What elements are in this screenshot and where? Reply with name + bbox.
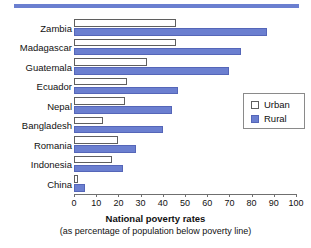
bar-rural-nepal (74, 106, 172, 114)
x-axis-tick-label: 30 (136, 198, 146, 209)
bar-group (74, 38, 311, 58)
bar-rural-indonesia (74, 165, 123, 173)
category-label-zambia: Zambia (40, 22, 72, 33)
bar-group (74, 155, 311, 175)
decorative-top-rule (14, 4, 299, 8)
chart-axis-subtitle: (as percentage of population below pover… (0, 226, 311, 236)
bar-urban-zambia (74, 19, 176, 27)
bar-urban-guatemala (74, 58, 147, 66)
x-axis-tick (274, 194, 275, 197)
category-label-romania: Romania (34, 139, 72, 150)
bar-rural-guatemala (74, 67, 229, 75)
chart-axis-title: National poverty rates (0, 213, 311, 224)
x-axis-tick-label: 40 (158, 198, 168, 209)
x-axis-tick (163, 194, 164, 197)
x-axis-tick (229, 194, 230, 197)
x-axis-tick-label: 10 (91, 198, 101, 209)
bar-group (74, 57, 311, 77)
x-axis-tick (118, 194, 119, 197)
category-label-nepal: Nepal (47, 100, 72, 111)
category-label-ecuador: Ecuador (37, 81, 72, 92)
category-label-guatemala: Guatemala (26, 61, 72, 72)
x-axis-tick (96, 194, 97, 197)
bar-urban-romania (74, 136, 118, 144)
bar-urban-ecuador (74, 78, 127, 86)
x-axis-tick-label: 50 (180, 198, 190, 209)
bar-urban-madagascar (74, 39, 176, 47)
bar-group (74, 174, 311, 194)
chart-row: Romania (0, 135, 311, 155)
legend-swatch-urban-icon (251, 101, 259, 109)
chart-row: Indonesia (0, 155, 311, 175)
x-axis-tick (296, 194, 297, 197)
bar-urban-china (74, 175, 78, 183)
category-label-madagascar: Madagascar (20, 42, 72, 53)
category-label-bangladesh: Bangladesh (22, 120, 72, 131)
bar-rural-bangladesh (74, 126, 163, 134)
x-axis-tick-label: 70 (224, 198, 234, 209)
x-axis-tick-label: 20 (113, 198, 123, 209)
bar-urban-nepal (74, 97, 125, 105)
bar-urban-indonesia (74, 156, 112, 164)
category-label-china: China (47, 178, 72, 189)
chart-row: Madagascar (0, 38, 311, 58)
chart-row: Guatemala (0, 57, 311, 77)
x-axis-tick (74, 194, 75, 197)
bar-urban-bangladesh (74, 117, 103, 125)
x-axis-tick-label: 100 (288, 198, 303, 209)
legend-label-urban: Urban (264, 99, 290, 110)
category-label-indonesia: Indonesia (31, 159, 72, 170)
chart-row: China (0, 174, 311, 194)
bar-group (74, 18, 311, 38)
chart-row: Zambia (0, 18, 311, 38)
bar-rural-china (74, 184, 85, 192)
chart-legend: Urban Rural (243, 93, 305, 129)
x-axis-tick (207, 194, 208, 197)
x-axis-tick-label: 80 (247, 198, 257, 209)
bar-rural-ecuador (74, 87, 178, 95)
legend-swatch-rural-icon (251, 115, 259, 123)
legend-item-rural: Rural (251, 113, 287, 124)
x-axis-tick (185, 194, 186, 197)
x-axis-tick (252, 194, 253, 197)
legend-item-urban: Urban (251, 99, 290, 110)
legend-label-rural: Rural (264, 113, 287, 124)
bar-group (74, 135, 311, 155)
bar-rural-madagascar (74, 48, 241, 56)
x-axis-tick-label: 60 (202, 198, 212, 209)
x-axis-tick-label: 0 (71, 198, 76, 209)
bar-rural-romania (74, 145, 136, 153)
x-axis-tick-label: 90 (269, 198, 279, 209)
bar-rural-zambia (74, 28, 267, 36)
poverty-rates-chart: ZambiaMadagascarGuatemalaEcuadorNepalBan… (0, 0, 311, 248)
x-axis-tick (141, 194, 142, 197)
